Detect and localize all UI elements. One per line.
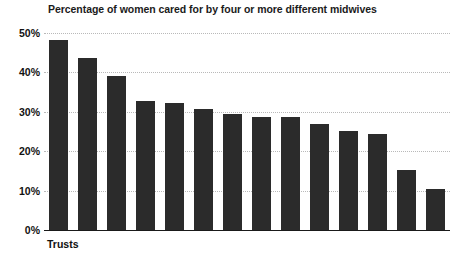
y-axis-tick-label: 50% — [0, 27, 40, 39]
chart-title: Percentage of women cared for by four or… — [48, 3, 377, 15]
bar — [368, 134, 386, 230]
y-axis-tick-label: 20% — [0, 145, 40, 157]
bar — [165, 103, 183, 230]
y-axis-tick-label: 0% — [0, 224, 40, 236]
bar — [136, 101, 154, 230]
bar — [339, 131, 357, 230]
bar — [426, 189, 444, 230]
bar — [194, 109, 212, 230]
bar — [223, 114, 241, 230]
bar — [252, 117, 270, 230]
bar — [310, 124, 328, 230]
x-axis-label: Trusts — [47, 238, 79, 250]
bar — [397, 170, 415, 230]
y-axis-tick-label: 40% — [0, 66, 40, 78]
plot-area — [44, 33, 450, 230]
bar — [78, 58, 96, 230]
y-axis-tick-label: 10% — [0, 185, 40, 197]
bar — [49, 40, 67, 230]
bar — [107, 76, 125, 230]
x-axis-line — [44, 230, 450, 231]
chart-container: Percentage of women cared for by four or… — [0, 0, 456, 261]
y-axis-tick-labels: 0%10%20%30%40%50% — [0, 0, 40, 261]
bar — [281, 117, 299, 230]
bar-series — [44, 33, 450, 230]
y-axis-tick-label: 30% — [0, 106, 40, 118]
